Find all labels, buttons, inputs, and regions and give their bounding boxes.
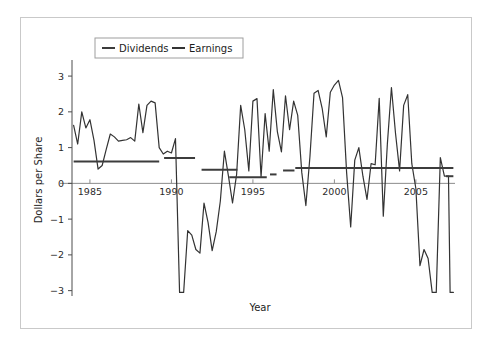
x-tick-label: 1990: [159, 186, 183, 197]
legend-label-dividends: Dividends: [119, 43, 169, 54]
dividends-segments: [74, 158, 454, 177]
x-tick-label: 1995: [241, 186, 265, 197]
x-axis-tick-labels: 19851990199520002005: [78, 186, 428, 197]
y-axis-ticks: [68, 76, 72, 291]
y-tick-label: −2: [50, 249, 64, 260]
chart-legend: Dividends Earnings: [95, 38, 243, 58]
y-tick-label: 2: [58, 106, 64, 117]
x-tick-label: 2000: [322, 186, 346, 197]
axis-titles-group: Year Dollars per Share: [33, 137, 271, 313]
legend-label-earnings: Earnings: [189, 43, 232, 54]
x-tick-label: 1985: [78, 186, 102, 197]
y-tick-label: 3: [58, 71, 64, 82]
dividends-earnings-chart: −3−2−10123 19851990199520002005 Year Dol…: [0, 0, 495, 349]
y-axis-tick-labels: −3−2−10123: [50, 71, 64, 297]
y-tick-label: −1: [50, 214, 64, 225]
y-axis-title: Dollars per Share: [33, 137, 44, 224]
figure-root: −3−2−10123 19851990199520002005 Year Dol…: [0, 0, 495, 349]
y-tick-label: −3: [50, 285, 64, 296]
x-axis-title: Year: [248, 302, 271, 313]
y-tick-label: 1: [58, 142, 64, 153]
y-tick-label: 0: [58, 178, 64, 189]
x-axis-ticks: [90, 179, 416, 183]
